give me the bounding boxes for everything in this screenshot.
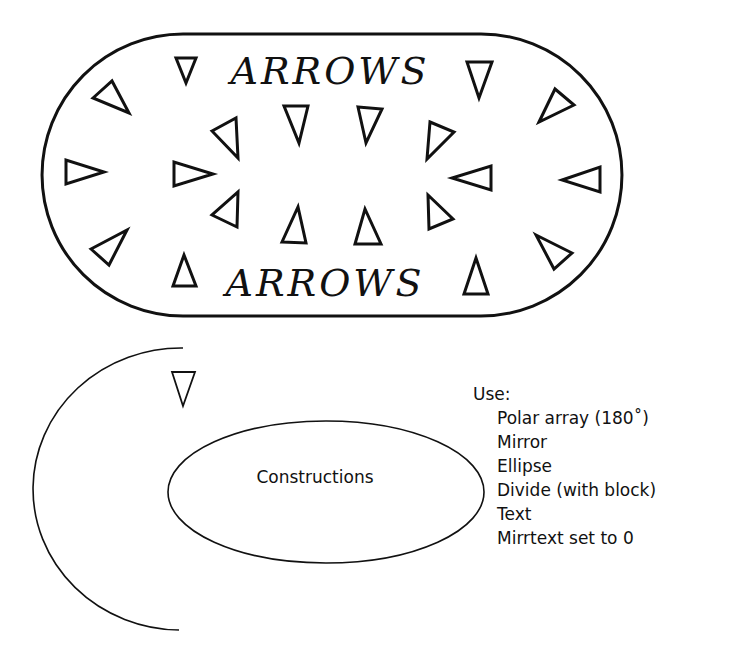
triangle-icon bbox=[66, 160, 104, 184]
notes-item: Polar array (180˚) bbox=[497, 408, 649, 428]
triangle-icon bbox=[355, 209, 381, 244]
triangle-icon bbox=[562, 167, 600, 192]
triangle-icon bbox=[91, 230, 127, 265]
triangle-icon bbox=[452, 166, 491, 190]
triangle-icon bbox=[428, 195, 453, 229]
triangle-icon bbox=[282, 207, 306, 243]
title-bottom: ARROWS bbox=[223, 261, 425, 305]
triangle-icon bbox=[172, 372, 195, 406]
triangle-icon bbox=[173, 255, 196, 286]
triangle-icon bbox=[93, 81, 129, 113]
notes-item: Divide (with block) bbox=[497, 480, 656, 500]
notes-item: Mirrtext set to 0 bbox=[497, 528, 634, 548]
construction-arc bbox=[33, 348, 183, 630]
diagram-canvas: ARROWS ARROWS bbox=[0, 0, 742, 668]
triangle-icon bbox=[467, 62, 492, 98]
top-panel: ARROWS ARROWS bbox=[42, 34, 622, 316]
bottom-panel: Constructions Use: Polar array (180˚) Mi… bbox=[33, 348, 656, 630]
triangle-icon bbox=[174, 162, 213, 186]
inner-ring-triangles bbox=[174, 106, 491, 244]
triangle-icon bbox=[464, 258, 488, 294]
notes-item: Text bbox=[496, 504, 532, 524]
notes-list: Use: Polar array (180˚) Mirror Ellipse D… bbox=[473, 384, 656, 548]
notes-item: Mirror bbox=[497, 432, 547, 452]
triangle-icon bbox=[284, 106, 308, 143]
ellipse-label: Constructions bbox=[256, 467, 373, 487]
triangle-icon bbox=[176, 58, 196, 83]
triangle-icon bbox=[539, 89, 574, 122]
notes-item: Ellipse bbox=[497, 456, 552, 476]
outer-left-triangles bbox=[66, 58, 196, 286]
triangle-icon bbox=[212, 192, 238, 227]
outer-right-triangles bbox=[464, 62, 600, 294]
triangle-icon bbox=[212, 118, 238, 158]
triangle-icon bbox=[536, 235, 572, 269]
construction-ellipse bbox=[168, 421, 484, 563]
triangle-icon bbox=[358, 107, 382, 143]
notes-heading: Use: bbox=[473, 384, 511, 404]
triangle-icon bbox=[427, 122, 454, 159]
title-top: ARROWS bbox=[228, 49, 430, 93]
